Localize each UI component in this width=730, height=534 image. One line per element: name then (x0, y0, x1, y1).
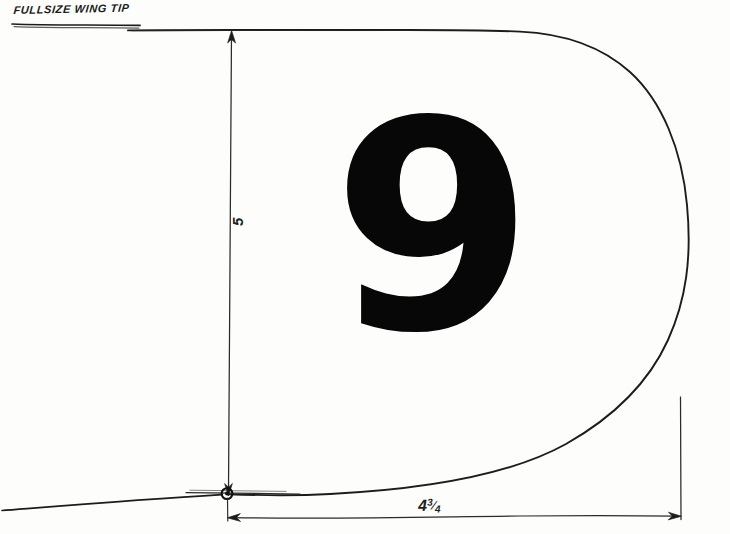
drawing-sheet: FULLSIZE WING TIP 9 5 43⁄4 (0, 0, 730, 534)
chord-reference-line (2, 490, 300, 510)
vertical-dimension-line (225, 31, 236, 497)
horizontal-dimension-value: 43⁄4 (418, 496, 441, 515)
vertical-dimension-value: 5 (229, 218, 246, 226)
horizontal-dimension-line (227, 512, 681, 521)
sheet-title: FULLSIZE WING TIP (13, 2, 130, 16)
horizontal-dimension-denominator: 4 (435, 503, 441, 514)
title-underline (12, 24, 140, 28)
right-extension-line (681, 397, 682, 520)
part-number-label: 9 (318, 108, 548, 348)
horizontal-dimension-whole: 4 (418, 497, 427, 514)
